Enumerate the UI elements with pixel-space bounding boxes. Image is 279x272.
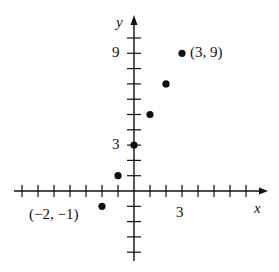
data-point xyxy=(130,142,137,149)
axes xyxy=(14,22,262,261)
data-point xyxy=(146,111,153,118)
x-axis-arrow-icon xyxy=(259,188,268,195)
coordinate-plane: x y 3 9 3 (−2, −1) (3, 9) xyxy=(0,0,279,272)
y-axis-arrow-icon xyxy=(131,15,138,25)
data-point xyxy=(178,50,185,57)
data-point xyxy=(162,80,169,87)
data-point xyxy=(114,172,121,179)
y-tick-label-3: 3 xyxy=(112,136,120,152)
y-axis-label: y xyxy=(114,14,123,30)
data-point xyxy=(98,203,105,210)
data-points xyxy=(98,50,185,210)
x-tick-label-3: 3 xyxy=(176,204,184,220)
point-label-low: (−2, −1) xyxy=(29,206,78,223)
point-label-high: (3, 9) xyxy=(190,44,223,61)
x-axis-label: x xyxy=(253,200,261,216)
y-tick-label-9: 9 xyxy=(112,44,120,60)
